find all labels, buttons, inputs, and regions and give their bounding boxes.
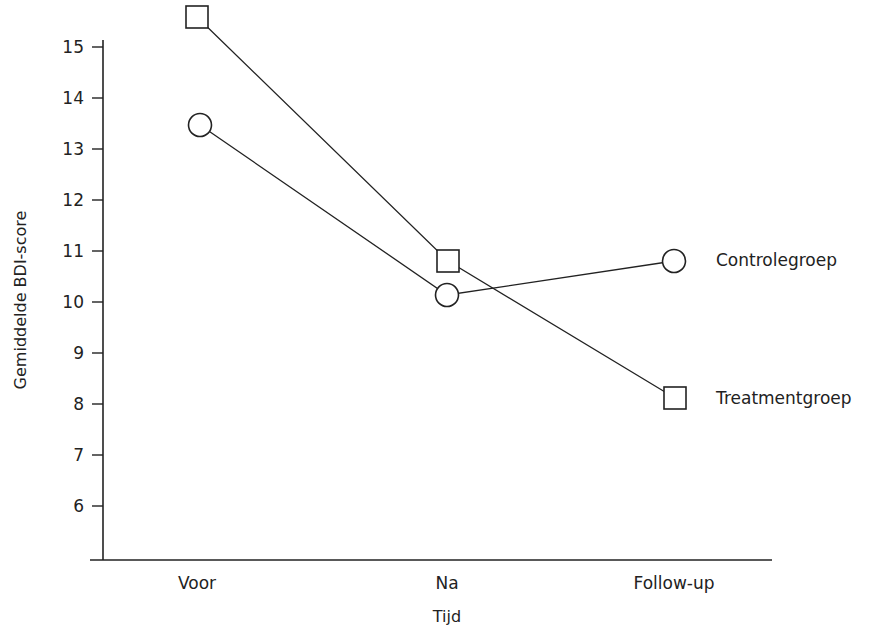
y-ticks	[92, 47, 103, 506]
y-tick-11: 11	[62, 241, 84, 261]
y-tick-7: 7	[73, 445, 84, 465]
square-marker	[437, 250, 459, 272]
circle-marker	[436, 284, 459, 307]
x-axis-title: Tijd	[432, 607, 461, 626]
x-category-follow-up: Follow-up	[633, 573, 714, 593]
y-tick-14: 14	[62, 88, 84, 108]
y-tick-13: 13	[62, 139, 84, 159]
y-tick-9: 9	[73, 343, 84, 363]
y-axis-title: Gemiddelde BDI-score	[11, 211, 30, 390]
y-tick-8: 8	[73, 394, 84, 414]
x-category-na: Na	[435, 573, 458, 593]
y-tick-10: 10	[62, 292, 84, 312]
series-controlegroep	[189, 114, 686, 307]
line-chart: 15 14 13 12 11 10 9 8 7 6 Gemiddelde BDI…	[0, 0, 874, 642]
series-treatmentgroep	[186, 6, 686, 409]
y-tick-15: 15	[62, 37, 84, 57]
x-category-voor: Voor	[178, 573, 216, 593]
circle-marker	[189, 114, 212, 137]
legend-treatmentgroep: Treatmentgroep	[715, 388, 852, 408]
legend-controlegroep: Controlegroep	[716, 250, 837, 270]
y-tick-12: 12	[62, 190, 84, 210]
circle-marker	[663, 250, 686, 273]
y-tick-labels: 15 14 13 12 11 10 9 8 7 6	[62, 37, 84, 516]
square-marker	[186, 6, 208, 28]
square-marker	[664, 387, 686, 409]
y-tick-6: 6	[73, 496, 84, 516]
